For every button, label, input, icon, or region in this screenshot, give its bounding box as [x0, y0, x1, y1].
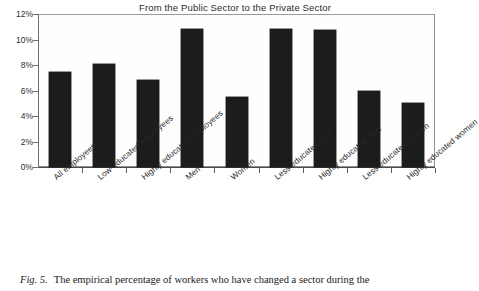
y-axis-tick-label: 10%: [2, 35, 33, 45]
y-axis-tick: [33, 65, 39, 66]
figure-number: Fig. 5.: [20, 274, 48, 285]
bar: [226, 97, 248, 167]
x-axis-tick: [303, 168, 304, 173]
bar: [93, 64, 115, 167]
bar: [49, 72, 71, 167]
figure-caption-text: The empirical percentage of workers who …: [54, 274, 370, 285]
x-axis-tick: [391, 168, 392, 173]
y-axis-tick-label: 4%: [2, 111, 33, 121]
x-axis-tick: [259, 168, 260, 173]
y-axis-tick-label: 12%: [2, 9, 33, 19]
y-axis-tick-label: 8%: [2, 60, 33, 70]
x-axis-tick: [82, 168, 83, 173]
y-axis-tick-label: 2%: [2, 137, 33, 147]
y-axis-tick: [33, 116, 39, 117]
x-axis-tick: [126, 168, 127, 173]
chart-title: From the Public Sector to the Private Se…: [110, 2, 360, 13]
y-axis-tick-label: 6%: [2, 86, 33, 96]
y-axis-tick: [33, 142, 39, 143]
y-axis-tick: [33, 91, 39, 92]
x-axis-tick: [435, 168, 436, 173]
x-axis-tick: [214, 168, 215, 173]
bar: [270, 29, 292, 167]
y-axis-tick-label: 0%: [2, 162, 33, 172]
y-axis-tick: [33, 167, 39, 168]
y-axis-tick: [33, 14, 39, 15]
y-axis-tick: [33, 40, 39, 41]
x-axis-tick: [170, 168, 171, 173]
figure-caption: Fig. 5.The empirical percentage of worke…: [20, 274, 445, 285]
x-axis-tick: [347, 168, 348, 173]
